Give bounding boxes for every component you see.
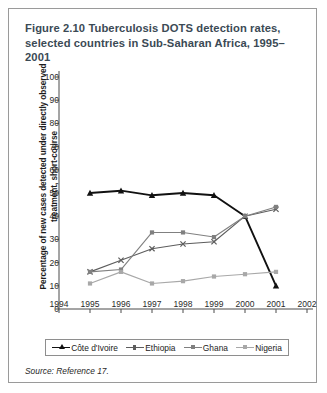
x-axis-tick-label: 1999 [197, 299, 231, 309]
series-line-2 [90, 207, 276, 272]
series-line-0 [90, 191, 276, 286]
series-marker-3 [181, 279, 185, 283]
x-axis-tick-label: 1998 [166, 299, 200, 309]
series-marker-3 [88, 281, 92, 285]
series-marker-3 [243, 272, 247, 276]
line-chart-svg [9, 61, 316, 331]
chart-legend: Côte d'IvoireEthiopiaGhanaNigeria [45, 339, 289, 356]
x-axis-tick-label: 2002 [290, 299, 324, 309]
figure-title-line-1: Figure 2.10 Tuberculosis DOTS detection … [25, 21, 305, 36]
legend-item[interactable]: Ghana [184, 343, 228, 353]
legend-label: Côte d'Ivoire [71, 343, 118, 353]
series-marker-3 [212, 274, 216, 278]
source-note: Source: Reference 17. [25, 366, 109, 376]
legend-label: Ethiopia [145, 343, 175, 353]
legend-marker-icon [243, 345, 247, 349]
series-line-1 [90, 209, 276, 272]
series-marker-2 [88, 270, 92, 274]
series-marker-0 [273, 283, 279, 289]
series-marker-3 [119, 270, 123, 274]
figure-panel: Figure 2.10 Tuberculosis DOTS detection … [8, 8, 317, 383]
legend-swatch-icon [236, 343, 254, 352]
legend-item[interactable]: Côte d'Ivoire [52, 343, 118, 353]
series-marker-2 [243, 214, 247, 218]
legend-item[interactable]: Ethiopia [126, 343, 175, 353]
legend-marker-icon [133, 345, 136, 350]
legend-marker-icon [191, 345, 195, 349]
legend-swatch-icon [126, 343, 144, 352]
chart-plot-area: Percentage of new cases detected under d… [9, 61, 316, 331]
legend-label: Ghana [203, 343, 228, 353]
series-marker-2 [274, 205, 278, 209]
legend-swatch-icon [52, 343, 70, 352]
series-marker-2 [150, 230, 154, 234]
legend-swatch-icon [184, 343, 202, 352]
x-axis-tick-label: 1995 [73, 299, 107, 309]
series-marker-3 [150, 281, 154, 285]
series-marker-2 [181, 230, 185, 234]
x-axis-tick-label: 2001 [259, 299, 293, 309]
legend-marker-icon [59, 344, 65, 349]
x-axis-tick-label: 1994 [42, 299, 76, 309]
legend-label: Nigeria [255, 343, 282, 353]
legend-item[interactable]: Nigeria [236, 343, 282, 353]
figure-title: Figure 2.10 Tuberculosis DOTS detection … [25, 21, 305, 65]
x-axis-tick-label: 1996 [104, 299, 138, 309]
series-marker-2 [212, 235, 216, 239]
series-marker-3 [274, 270, 278, 274]
x-axis-tick-label: 1997 [135, 299, 169, 309]
x-axis-tick-label: 2000 [228, 299, 262, 309]
series-marker-1 [118, 258, 123, 263]
